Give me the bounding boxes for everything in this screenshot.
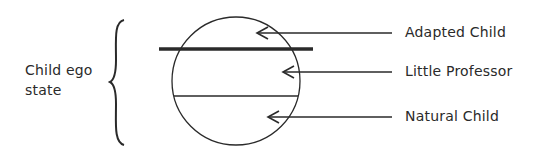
group-label-line2: state [25, 80, 61, 100]
arrow-adapted-child [257, 27, 392, 39]
label-little-professor: Little Professor [405, 61, 512, 81]
curly-brace [110, 20, 124, 145]
child-circle [172, 17, 300, 145]
group-label-line1: Child ego [25, 60, 93, 80]
label-natural-child: Natural Child [405, 106, 499, 126]
label-adapted-child: Adapted Child [405, 22, 506, 42]
